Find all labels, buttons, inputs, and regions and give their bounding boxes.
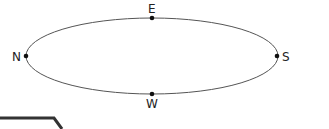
west-label: W <box>146 97 158 111</box>
south-point <box>275 54 280 59</box>
north-label: N <box>12 50 21 64</box>
east-point <box>150 16 155 21</box>
diagram-canvas: N E S W <box>0 0 329 129</box>
south-label: S <box>282 50 290 64</box>
east-label: E <box>148 2 156 16</box>
orbit-diagram: N E S W <box>0 0 329 129</box>
partial-shape-outline <box>0 118 62 129</box>
north-point <box>24 54 29 59</box>
orbit-ellipse <box>26 18 278 94</box>
west-point <box>150 92 155 97</box>
